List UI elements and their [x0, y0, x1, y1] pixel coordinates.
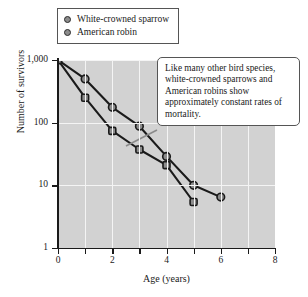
- y-tick-100: [52, 123, 57, 124]
- x-ticklabel-2: 2: [102, 255, 122, 265]
- gridline-x-3: [139, 60, 140, 248]
- legend-label-robin: American robin: [77, 27, 137, 38]
- x-tick-0: [58, 249, 59, 254]
- gridline-x-1: [85, 60, 86, 248]
- legend-marker-icon: [64, 29, 71, 36]
- x-ticklabel-6: 6: [211, 255, 231, 265]
- gridline-x-2: [112, 60, 113, 248]
- x-tick-6: [221, 249, 222, 254]
- x-ticklabel-8: 8: [265, 255, 285, 265]
- y-tick-1: [52, 248, 57, 249]
- chart-legend: White-crowned sparrow American robin: [57, 8, 179, 44]
- chart-annotation-callout: Like many other bird species, white-crow…: [157, 57, 300, 126]
- x-tick-8: [275, 249, 276, 254]
- x-ticklabel-4: 4: [157, 255, 177, 265]
- y-ticklabel-1: 1: [0, 242, 48, 252]
- x-axis-title: Age (years): [58, 273, 275, 284]
- callout-leader-line: [126, 130, 157, 146]
- legend-marker-icon: [64, 16, 71, 23]
- survivorship-curve-figure: White-crowned sparrow American robin: [0, 0, 308, 297]
- x-tick-3: [139, 249, 140, 254]
- x-tick-1: [85, 249, 86, 254]
- legend-item-sparrow: White-crowned sparrow: [64, 13, 169, 26]
- x-tick-2: [112, 249, 113, 254]
- y-ticklabel-10: 10: [0, 179, 48, 189]
- y-tick-1000: [52, 60, 57, 61]
- x-tick-5: [194, 249, 195, 254]
- callout-text: Like many other bird species, white-crow…: [165, 63, 292, 120]
- y-axis-line: [57, 58, 59, 249]
- x-tick-7: [248, 249, 249, 254]
- x-tick-4: [167, 249, 168, 254]
- legend-item-robin: American robin: [64, 26, 169, 39]
- y-tick-10: [52, 185, 57, 186]
- legend-label-sparrow: White-crowned sparrow: [77, 14, 169, 25]
- x-ticklabel-0: 0: [48, 255, 68, 265]
- y-axis-title: Number of survivors: [15, 27, 26, 157]
